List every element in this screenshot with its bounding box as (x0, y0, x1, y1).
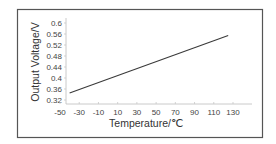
chart: 0.320.360.40.440.480.520.560.6 -50-30-10… (0, 0, 276, 144)
y-tick-label: 0.4 (51, 74, 63, 83)
x-tick-label: 70 (171, 108, 180, 117)
x-tick-label: -50 (54, 108, 66, 117)
y-tick-label: 0.56 (46, 30, 62, 39)
y-tick-label: 0.36 (46, 85, 62, 94)
y-ticks: 0.320.360.40.440.480.520.560.6 (46, 19, 66, 105)
x-axis-label: Temperature/℃ (109, 117, 183, 129)
y-tick-label: 0.48 (46, 52, 62, 61)
y-tick-label: 0.6 (51, 19, 63, 28)
x-tick-label: -30 (73, 108, 85, 117)
x-tick-label: 110 (207, 108, 220, 117)
x-tick-label: 90 (190, 108, 199, 117)
output-voltage-line (70, 35, 229, 93)
x-tick-label: 50 (152, 108, 161, 117)
plot-area: 0.320.360.40.440.480.520.560.6 -50-30-10… (46, 18, 252, 117)
y-axis-label: Output Voltage/V (29, 22, 41, 101)
x-tick-label: -10 (93, 108, 105, 117)
x-tick-label: 10 (113, 108, 122, 117)
y-tick-label: 0.44 (46, 63, 62, 72)
x-tick-label: 130 (226, 108, 240, 117)
y-tick-label: 0.52 (46, 41, 62, 50)
x-tick-label: 30 (132, 108, 141, 117)
